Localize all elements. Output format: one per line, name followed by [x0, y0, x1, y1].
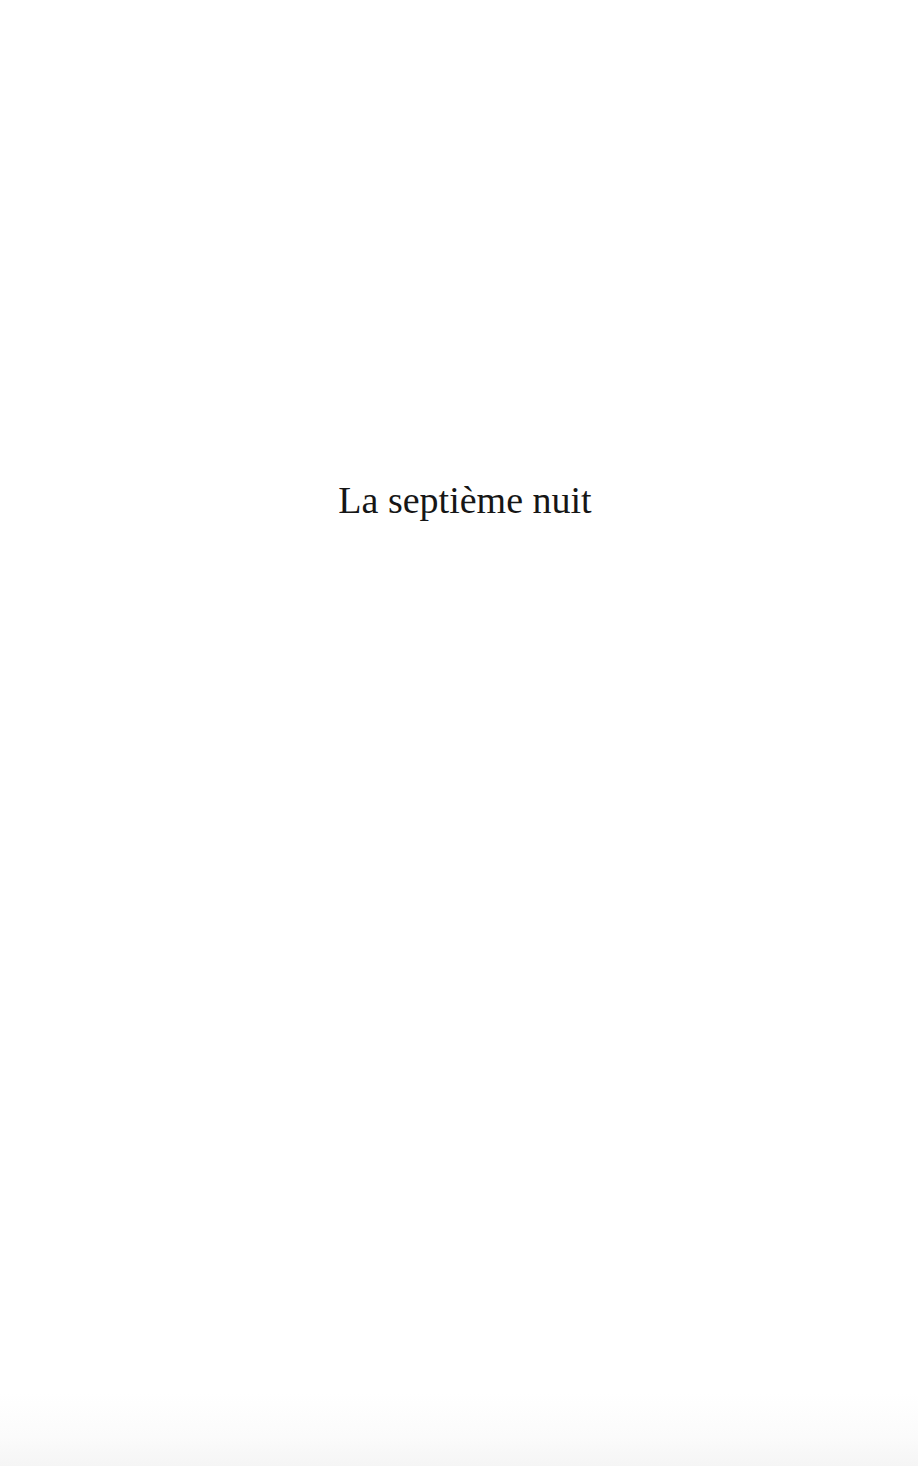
book-page: La septième nuit	[0, 0, 918, 1466]
half-title: La septième nuit	[0, 474, 918, 526]
